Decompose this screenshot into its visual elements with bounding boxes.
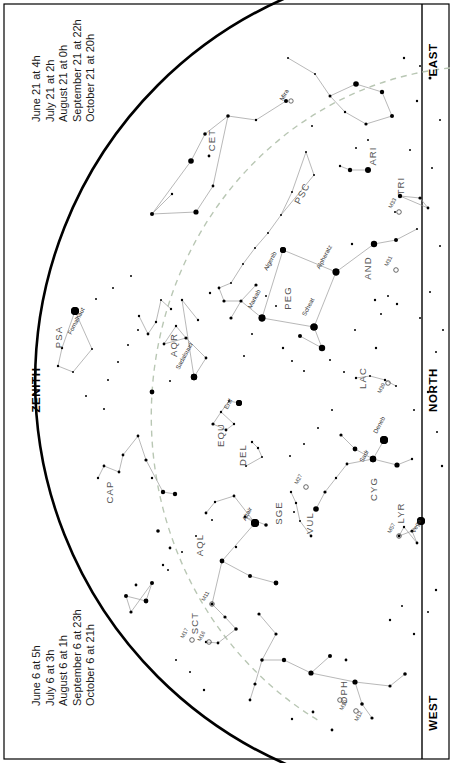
date-annotations: June 21 at 4hJuly 21 at 2hAugust 21 at 0… — [30, 19, 96, 706]
constellation-label-vul: VUL — [304, 512, 315, 534]
cardinal-west: WEST — [427, 695, 439, 731]
cardinal-north: NORTH — [427, 368, 439, 412]
date-times-bottom-line-0: June 6 at 5h — [30, 645, 42, 706]
date-times-top-line-3: September 21 at 22h — [71, 19, 83, 122]
star-label-algenib: Algenib — [262, 250, 278, 272]
constellation-label-ari: ARI — [367, 146, 378, 165]
constellation-label-lyr: LYR — [395, 502, 406, 523]
date-times-bottom-line-1: July 6 at 3h — [44, 650, 56, 706]
date-times-bottom-line-2: August 6 at 1h — [57, 635, 69, 706]
date-times-top-line-1: July 21 at 2h — [44, 60, 56, 122]
star-label-deneb: Deneb — [371, 415, 386, 435]
star-field — [57, 57, 444, 732]
star-label-mira: Mira — [278, 87, 290, 101]
messier-label-m12: M12 — [353, 710, 363, 722]
messier-label-m17: M17 — [179, 627, 189, 639]
messier-markers — [190, 210, 402, 714]
constellation-label-aql: AQL — [194, 534, 205, 556]
constellation-label-sct: SCT — [189, 612, 200, 634]
constellation-label-tri: TRI — [395, 177, 406, 196]
sky-canvas: CETPSCARITRIANDPEGLACCYGLYRDELEQUSGEVULA… — [0, 0, 453, 763]
star-label-enif: Enif — [222, 397, 233, 410]
date-times-bottom-line-3: September 6 at 23h — [71, 609, 83, 706]
cardinal-east: EAST — [427, 43, 439, 76]
constellation-label-lac: LAC — [357, 367, 368, 389]
constellation-label-del: DEL — [237, 444, 248, 466]
date-times-top-line-4: October 21 at 20h — [84, 34, 96, 122]
star-label-markab: Markab — [246, 288, 262, 310]
constellation-label-psa: PSA — [53, 326, 64, 348]
constellation-label-cet: CET — [206, 129, 217, 151]
constellation-label-cap: CAP — [104, 481, 115, 504]
star-label-sadr: Sadr — [358, 448, 370, 463]
constellation-label-equ: EQU — [215, 423, 226, 447]
messier-label-m31: M31 — [383, 255, 393, 267]
constellation-label-peg: PEG — [282, 286, 293, 309]
constellation-label-and: AND — [362, 256, 373, 279]
date-times-top-line-2: August 21 at 0h — [57, 45, 69, 122]
horizon-arc — [35, 0, 453, 763]
cardinal-zenith: ZENITH — [30, 367, 42, 412]
messier-label-m33: M33 — [387, 197, 397, 209]
star-chart: CETPSCARITRIANDPEGLACCYGLYRDELEQUSGEVULA… — [0, 0, 453, 763]
star-label-alpheratz: Alpheratz — [315, 244, 333, 270]
messier-label-m11: M11 — [200, 590, 210, 602]
messier-label-m39: M39 — [376, 382, 386, 394]
messier-label-m27: M27 — [293, 473, 303, 485]
date-times-top-line-0: June 21 at 4h — [30, 55, 42, 122]
star-label-scheat: Scheat — [300, 296, 315, 317]
date-times-bottom-line-4: October 6 at 21h — [84, 624, 96, 706]
constellation-label-aqr: AQR — [168, 333, 179, 357]
constellation-label-sge: SGE — [273, 501, 284, 524]
constellation-label-cyg: CYG — [368, 477, 379, 501]
